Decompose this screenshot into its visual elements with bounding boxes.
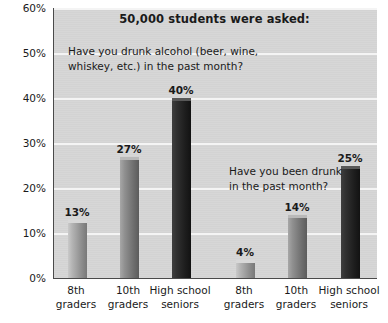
bar-top-highlight xyxy=(236,260,255,263)
gridline-30 xyxy=(54,143,377,145)
y-tick-10pct: 10% xyxy=(0,227,46,239)
bar-value-label: 4% xyxy=(236,246,254,258)
bar-chart: 13%27%40%4%14%25% Have you drunk alcohol… xyxy=(0,0,388,323)
chart-title: 50,000 students were asked: xyxy=(53,12,376,26)
gridline-60 xyxy=(54,8,377,10)
bar-top-highlight xyxy=(120,157,139,160)
bar-top-highlight xyxy=(172,98,191,101)
gridline-10 xyxy=(54,233,377,235)
bar-top-highlight xyxy=(288,215,307,218)
bar-value-label: 27% xyxy=(116,143,141,155)
bar-value-label: 40% xyxy=(168,84,193,96)
bar-fill xyxy=(288,215,307,278)
y-tick-30pct: 30% xyxy=(0,137,46,149)
bar: 13% xyxy=(68,220,87,279)
y-tick-50pct: 50% xyxy=(0,47,46,59)
bar: 40% xyxy=(172,98,191,278)
bar-value-label: 13% xyxy=(64,206,89,218)
bar-value-label: 14% xyxy=(284,201,309,213)
bar-top-highlight xyxy=(68,220,87,223)
bar-value-label: 25% xyxy=(337,152,362,164)
y-tick-40pct: 40% xyxy=(0,92,46,104)
bar-fill xyxy=(68,220,87,279)
y-tick-20pct: 20% xyxy=(0,182,46,194)
annotation-question-1: Have you drunk alcohol (beer, wine, whis… xyxy=(68,44,283,74)
plot-area: 13%27%40%4%14%25% Have you drunk alcohol… xyxy=(53,8,377,279)
bar: 27% xyxy=(120,157,139,279)
gridline-40 xyxy=(54,98,377,100)
y-tick-60pct: 60% xyxy=(0,2,46,14)
annotation-question-2: Have you been drunk in the past month? xyxy=(229,164,369,194)
bar-fill xyxy=(172,98,191,278)
bar: 14% xyxy=(288,215,307,278)
bar: 4% xyxy=(236,260,255,278)
bar-fill xyxy=(120,157,139,279)
x-axis-label: High school seniors xyxy=(309,283,388,311)
